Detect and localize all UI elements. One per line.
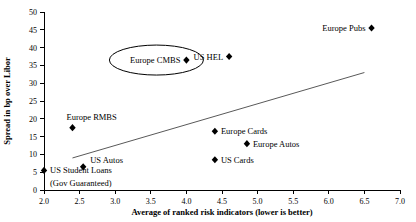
x-tick-label: 7.0 (395, 197, 405, 206)
data-point-marker (368, 24, 374, 31)
y-tick-label: 50 (29, 8, 37, 17)
x-axis-title: Average of ranked risk indicators (lower… (131, 207, 312, 217)
data-point-label: Europe Autos (253, 139, 300, 149)
data-point-label: Europe RMBS (66, 112, 117, 122)
y-tick-label: 15 (29, 133, 37, 142)
data-point-label: Europe Pubs (322, 23, 365, 33)
data-point-label: US Autos (90, 155, 123, 165)
data-point-label: Europe CMBS (130, 55, 181, 65)
x-tick-label: 6.0 (324, 197, 334, 206)
y-tick-label: 5 (33, 168, 37, 177)
x-tick-label: 5.0 (253, 197, 263, 206)
data-point-label: (Gov Guaranteed) (50, 178, 112, 188)
x-tick-label: 3.5 (146, 197, 156, 206)
x-axis-ticks: 2.02.53.03.54.04.55.05.56.06.57.0 (39, 190, 405, 206)
x-tick-label: 4.0 (181, 197, 191, 206)
data-point-marker (212, 156, 218, 163)
scatter-chart: 05101520253035404550 2.02.53.03.54.04.55… (0, 0, 416, 222)
chart-canvas: 05101520253035404550 2.02.53.03.54.04.55… (0, 0, 416, 222)
x-tick-label: 2.5 (75, 197, 85, 206)
data-point-marker (226, 53, 232, 60)
x-tick-label: 5.5 (288, 197, 298, 206)
y-tick-label: 20 (29, 115, 37, 124)
data-point-label: US HEL (194, 52, 224, 62)
data-point-label: Europe Cards (221, 126, 268, 136)
data-point-group: Europe CMBSUS HELEurope PubsEurope RMBSE… (41, 23, 375, 188)
data-point-label: US Cards (221, 155, 254, 165)
x-tick-label: 2.0 (39, 197, 49, 206)
y-tick-label: 25 (29, 97, 37, 106)
data-point-marker (183, 56, 189, 63)
x-tick-label: 4.5 (217, 197, 227, 206)
data-point-marker (212, 128, 218, 135)
data-point-marker (69, 124, 75, 131)
data-point-marker (41, 167, 47, 174)
y-tick-label: 40 (29, 44, 37, 53)
y-tick-label: 0 (33, 186, 37, 195)
y-tick-label: 10 (29, 150, 37, 159)
y-axis-ticks: 05101520253035404550 (29, 8, 44, 195)
y-tick-label: 45 (29, 26, 37, 35)
y-axis-title: Spread in bp over Libor (2, 57, 12, 145)
x-tick-label: 6.5 (359, 197, 369, 206)
x-tick-label: 3.0 (110, 197, 120, 206)
y-tick-label: 35 (29, 61, 37, 70)
data-point-label: US Student Loans (50, 165, 112, 175)
y-tick-label: 30 (29, 79, 37, 88)
data-point-marker (244, 140, 250, 147)
